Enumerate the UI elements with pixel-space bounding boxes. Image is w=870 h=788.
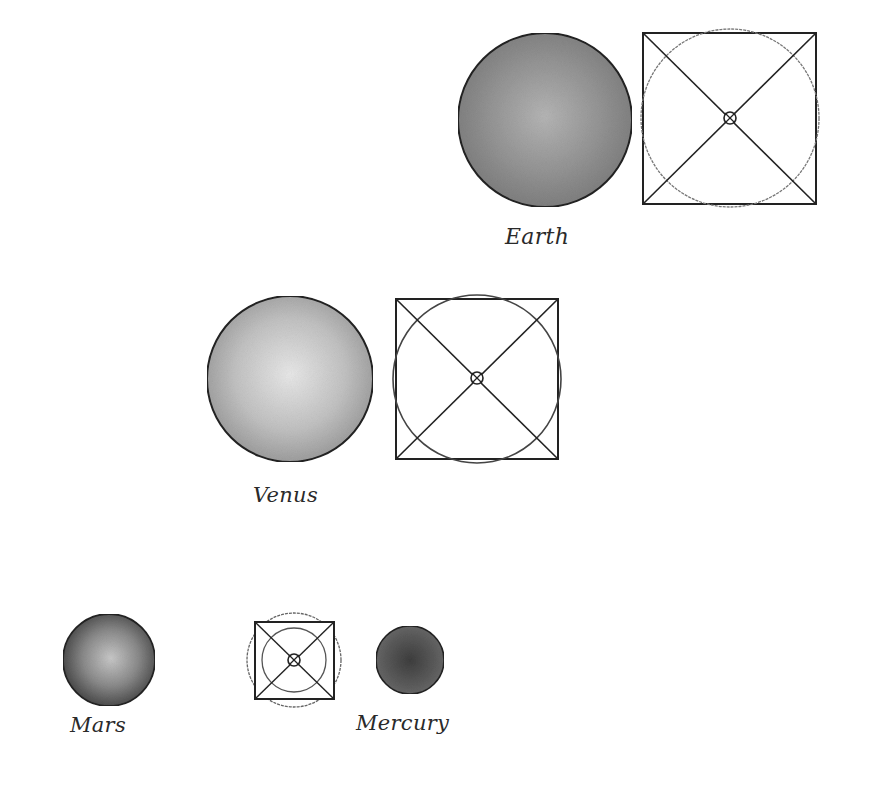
small-construction-diagram: [247, 613, 341, 707]
venus-label: Venus: [253, 483, 318, 507]
mars-label: Mars: [70, 713, 126, 737]
mercury-group: [376, 626, 444, 694]
mars-group: [63, 614, 155, 706]
mars-sphere: [63, 614, 155, 706]
mercury-sphere: [376, 626, 444, 694]
earth-construction-diagram: [641, 29, 819, 207]
venus-group: [207, 295, 561, 463]
venus-construction-diagram: [393, 295, 561, 463]
earth-sphere: [458, 33, 632, 207]
mercury-label: Mercury: [356, 711, 449, 735]
planet-diagram-canvas: [0, 0, 870, 788]
venus-sphere: [207, 296, 373, 462]
earth-group: [458, 29, 819, 207]
earth-label: Earth: [505, 224, 569, 249]
